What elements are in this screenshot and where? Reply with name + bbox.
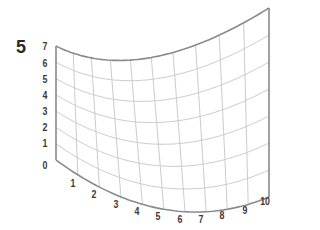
x-axis-label: 8 — [220, 210, 225, 221]
x-axis-label: 7 — [199, 214, 204, 225]
y-axis-label: 0 — [43, 160, 48, 171]
y-axis-label: 7 — [43, 41, 48, 52]
x-axis-label: 6 — [178, 214, 183, 225]
x-axis-label: 4 — [135, 206, 140, 217]
y-axis-label: 4 — [43, 90, 48, 101]
x-axis-label: 5 — [156, 211, 161, 222]
bottom-border-curve — [56, 160, 269, 212]
grid-line-horizontal — [56, 89, 269, 123]
grid-line-vertical — [173, 53, 185, 212]
y-axis-label: 6 — [43, 58, 48, 69]
x-axis-label: 9 — [243, 205, 248, 216]
grid-line-horizontal — [56, 127, 269, 166]
grid-line-vertical — [196, 45, 207, 212]
y-axis-label: 1 — [43, 138, 48, 149]
x-axis-label: 1 — [71, 178, 76, 189]
x-axis-label: 10 — [260, 196, 270, 207]
grid-line-vertical — [244, 23, 249, 205]
y-axis-label: 3 — [43, 106, 48, 117]
x-axis-label: 2 — [92, 189, 97, 200]
grid-line-vertical — [219, 35, 227, 209]
grid-line-horizontal — [56, 62, 269, 101]
grid-line-horizontal — [56, 111, 269, 144]
y-axis-label: 2 — [43, 122, 48, 133]
x-axis-label: 3 — [114, 199, 119, 210]
y-axis-label: 5 — [43, 74, 48, 85]
